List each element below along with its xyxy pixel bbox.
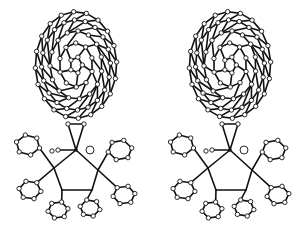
- fullerene-complex-right: [152, 0, 304, 227]
- molecule-view-left: [0, 0, 152, 227]
- fullerene-complex-left: [0, 0, 152, 227]
- molecule-view-right: [152, 0, 304, 227]
- stereo-diagram: [0, 0, 305, 227]
